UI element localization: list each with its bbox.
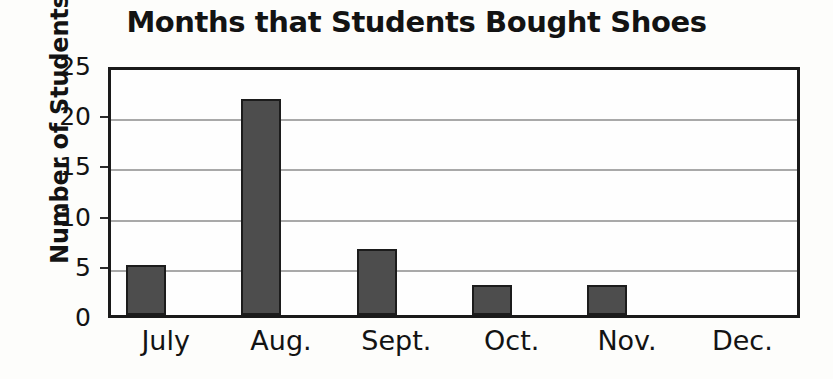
y-tick-label-15: 15 (31, 154, 91, 179)
bar-july (126, 265, 166, 315)
y-tick-label-25: 25 (31, 54, 91, 79)
bar-oct (472, 285, 512, 315)
x-tick-label-july: July (108, 327, 223, 354)
x-tick-label-dec: Dec. (685, 327, 800, 354)
bar-sept (357, 249, 397, 315)
plot-inner (111, 70, 797, 315)
chart-title: Months that Students Bought Shoes (0, 5, 833, 39)
x-tick-label-aug: Aug. (223, 327, 338, 354)
gridline-15 (111, 169, 797, 171)
gridline-20 (111, 119, 797, 121)
plot-area (108, 67, 800, 318)
bar-nov (587, 285, 627, 315)
bar-aug (241, 99, 281, 315)
gridline-10 (111, 220, 797, 222)
bar-chart-figure: Months that Students Bought Shoes Number… (0, 0, 833, 379)
y-tick-label-5: 5 (31, 255, 91, 280)
gridline-5 (111, 270, 797, 272)
x-tick-label-nov: Nov. (569, 327, 684, 354)
x-tick-label-sept: Sept. (339, 327, 454, 354)
y-tick-label-10: 10 (31, 205, 91, 230)
x-tick-label-oct: Oct. (454, 327, 569, 354)
y-tick-label-20: 20 (31, 104, 91, 129)
y-tick-label-0: 0 (31, 305, 91, 330)
